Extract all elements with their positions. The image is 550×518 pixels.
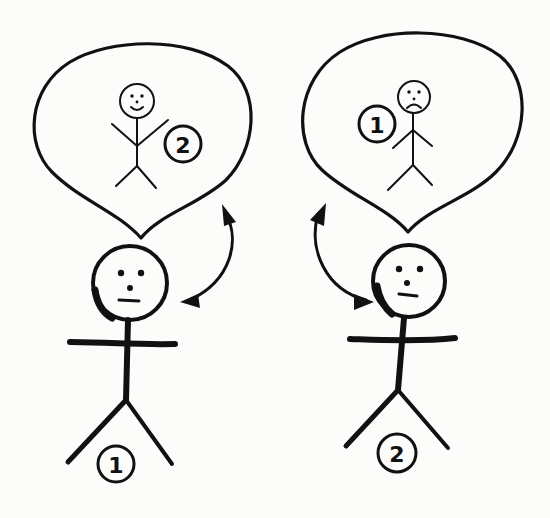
person-1: 1 xyxy=(68,246,175,482)
svg-text:2: 2 xyxy=(175,133,190,158)
eye-icon xyxy=(396,266,402,272)
nose-icon xyxy=(413,98,416,101)
svg-text:2: 2 xyxy=(389,442,404,467)
svg-text:1: 1 xyxy=(108,453,123,478)
arrowhead-icon xyxy=(354,294,374,310)
mouth-neutral xyxy=(399,294,417,296)
eye-icon xyxy=(417,266,423,272)
eye-icon xyxy=(118,270,124,276)
nose-icon xyxy=(404,280,410,286)
curved-double-arrow-2 xyxy=(310,203,374,310)
arrowhead-icon xyxy=(222,204,236,226)
frown-icon xyxy=(407,105,421,109)
mouth-neutral xyxy=(119,300,139,301)
svg-text:1: 1 xyxy=(369,113,384,138)
imagined-person-2-happy xyxy=(112,84,168,188)
person-2: 2 xyxy=(346,245,455,472)
nose-icon xyxy=(136,101,139,104)
badge-1-small: 1 xyxy=(359,106,395,142)
badge-1: 1 xyxy=(98,446,134,482)
thought-bubble-1: 2 xyxy=(34,44,251,238)
smile-icon xyxy=(131,107,143,110)
eye-icon xyxy=(138,270,144,276)
imagined-person-1-sad xyxy=(388,81,432,190)
eye-icon xyxy=(130,94,133,97)
nose-icon xyxy=(127,285,133,291)
thought-bubble-2: 1 xyxy=(303,33,522,232)
eye-icon xyxy=(140,94,143,97)
curved-double-arrow-1 xyxy=(180,204,236,308)
diagram-canvas: 2 1 xyxy=(0,0,550,518)
badge-2: 2 xyxy=(378,434,416,472)
arrowhead-icon xyxy=(310,203,326,226)
eye-icon xyxy=(417,90,420,93)
arrowhead-icon xyxy=(180,294,200,308)
eye-icon xyxy=(407,90,410,93)
badge-2-small: 2 xyxy=(165,126,201,162)
